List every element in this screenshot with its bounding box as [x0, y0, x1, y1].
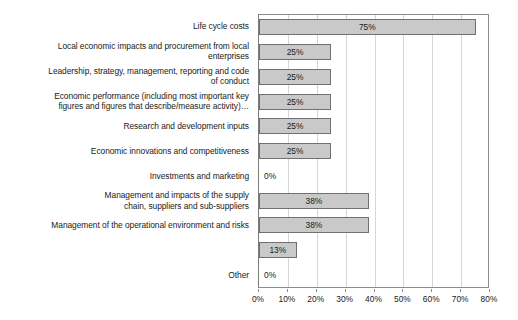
bar[interactable]: 25%: [259, 69, 331, 85]
bar[interactable]: 75%: [259, 19, 476, 35]
x-tick-label: 0%: [252, 294, 264, 304]
category-label: Research and development inputs: [0, 114, 254, 139]
bar-row: 0%: [259, 163, 488, 188]
x-tickmark: [402, 289, 403, 292]
bar-row: 25%: [259, 114, 488, 139]
bar-row: 38%: [259, 213, 488, 238]
bar-row: 25%: [259, 139, 488, 164]
bar-row: 75%: [259, 15, 488, 40]
x-tickmark: [258, 289, 259, 292]
category-label: Life cycle costs: [0, 14, 254, 39]
category-label: Economic innovations and competitiveness: [0, 139, 254, 164]
bar-row: 0%: [259, 262, 488, 287]
bar-value-label: 25%: [287, 97, 304, 107]
category-label: Management of the operational environmen…: [0, 213, 254, 238]
bar-row: 38%: [259, 188, 488, 213]
category-label: Other: [0, 263, 254, 288]
bar-row: 25%: [259, 89, 488, 114]
bar-value-label: 0%: [264, 270, 276, 280]
category-label: Investments and marketing: [0, 163, 254, 188]
x-tick-label: 20%: [307, 294, 324, 304]
bar-chart: Life cycle costsLocal economic impacts a…: [0, 0, 518, 320]
bar-value-label: 0%: [264, 171, 276, 181]
category-label: Economic performance (including most imp…: [0, 89, 254, 114]
x-tick-label: 70%: [452, 294, 469, 304]
x-tickmark: [345, 289, 346, 292]
bar[interactable]: 38%: [259, 193, 369, 209]
x-tickmark: [460, 289, 461, 292]
bar-row: 25%: [259, 40, 488, 65]
x-tick-label: 60%: [423, 294, 440, 304]
x-tickmark: [316, 289, 317, 292]
bar-value-label: 38%: [305, 220, 322, 230]
bar[interactable]: 25%: [259, 94, 331, 110]
bar-value-label: 38%: [305, 196, 322, 206]
category-label: Local economic impacts and procurement f…: [0, 39, 254, 64]
x-axis: 0%10%20%30%40%50%60%70%80%: [258, 289, 489, 311]
bar-row: 13%: [259, 238, 488, 263]
plot-area: 75%25%25%25%25%25%0%38%38%13%0%: [258, 14, 489, 288]
bar-value-label: 25%: [287, 47, 304, 57]
x-tick-label: 40%: [365, 294, 382, 304]
bar[interactable]: 13%: [259, 242, 297, 258]
bar[interactable]: 25%: [259, 44, 331, 60]
x-tickmark: [374, 289, 375, 292]
bar-value-label: 75%: [359, 22, 376, 32]
bar-value-label: 25%: [287, 72, 304, 82]
x-tick-label: 30%: [336, 294, 353, 304]
x-tickmark: [287, 289, 288, 292]
category-label: [0, 238, 254, 263]
category-label: Leadership, strategy, management, report…: [0, 64, 254, 89]
category-label: Management and impacts of the supply cha…: [0, 188, 254, 213]
x-tickmark: [431, 289, 432, 292]
x-tick-label: 50%: [394, 294, 411, 304]
x-tick-label: 10%: [278, 294, 295, 304]
bar-value-label: 25%: [287, 146, 304, 156]
bar-value-label: 13%: [269, 245, 286, 255]
bar[interactable]: 38%: [259, 217, 369, 233]
category-label-column: Life cycle costsLocal economic impacts a…: [0, 14, 254, 288]
bar-value-label: 25%: [287, 121, 304, 131]
bar[interactable]: 25%: [259, 118, 331, 134]
bar-row: 25%: [259, 64, 488, 89]
bar-series: 75%25%25%25%25%25%0%38%38%13%0%: [259, 15, 488, 287]
x-tickmark: [489, 289, 490, 292]
bar[interactable]: 25%: [259, 143, 331, 159]
x-tick-label: 80%: [481, 294, 498, 304]
